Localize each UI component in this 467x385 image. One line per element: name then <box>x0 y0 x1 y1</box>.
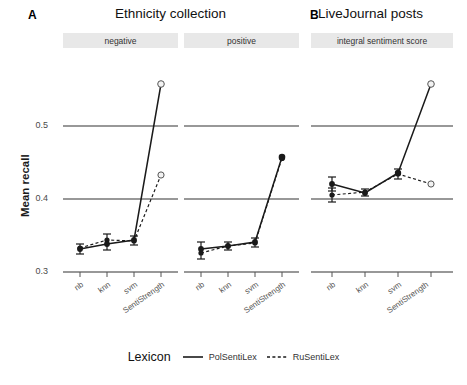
legend-key-rusentilex[interactable]: RuSentiLex <box>266 352 340 362</box>
plot-svg-negative <box>63 56 178 272</box>
series-line-polsentilex <box>80 84 161 249</box>
legend-key-polsentilex[interactable]: PolSentiLex <box>182 352 257 362</box>
legend-swatch-solid <box>182 352 204 362</box>
facet-strip-negative: negative <box>63 33 178 48</box>
series-markers-polsentilex <box>329 81 434 196</box>
legend-label-polsentilex: PolSentiLex <box>209 352 257 362</box>
plot-svg-integral <box>311 56 453 272</box>
series-markers-rusentilex <box>77 172 164 251</box>
x-tick-nb-integral: nb <box>303 280 338 308</box>
y-tick-0-5: 0.5 <box>26 120 48 130</box>
facet-strip-positive-label: positive <box>227 36 256 46</box>
series-line-polsentilex <box>332 84 431 193</box>
series-line-rusentilex <box>80 175 161 248</box>
facet-strip-negative-label: negative <box>104 36 136 46</box>
plot-svg-positive <box>184 56 299 272</box>
series-line-polsentilex <box>201 157 282 249</box>
panel-title-livejournal: LiveJournal posts <box>318 6 423 21</box>
legend-title: Lexicon <box>128 350 171 364</box>
panel-letter-a: A <box>28 8 37 22</box>
legend-label-rusentilex: RuSentiLex <box>293 352 340 362</box>
x-axis-ticks <box>332 272 431 277</box>
y-tick-0-3: 0.3 <box>26 266 48 276</box>
panel-title-ethnicity: Ethnicity collection <box>115 6 226 21</box>
plot-panel-a-negative <box>63 56 178 272</box>
legend-swatch-dotted <box>266 352 288 362</box>
series-line-rusentilex <box>201 158 282 253</box>
y-tick-0-4: 0.4 <box>26 193 48 203</box>
y-axis-label: Mean recall <box>19 154 31 217</box>
x-axis-ticks <box>80 272 161 277</box>
series-markers-rusentilex <box>198 155 285 256</box>
x-tick-knn-integral: knn <box>336 280 371 308</box>
series-line-rusentilex <box>332 174 431 195</box>
plot-panel-b-integral <box>311 56 453 272</box>
plot-panel-a-positive <box>184 56 299 272</box>
facet-strip-integral-label: integral sentiment score <box>337 36 427 46</box>
x-axis-ticks <box>201 272 282 277</box>
series-markers-polsentilex <box>77 81 164 252</box>
series-markers-polsentilex <box>198 154 285 252</box>
legend: Lexicon PolSentiLex RuSentiLex <box>0 350 467 364</box>
facet-strip-integral: integral sentiment score <box>311 33 453 48</box>
facet-strip-positive: positive <box>184 33 299 48</box>
